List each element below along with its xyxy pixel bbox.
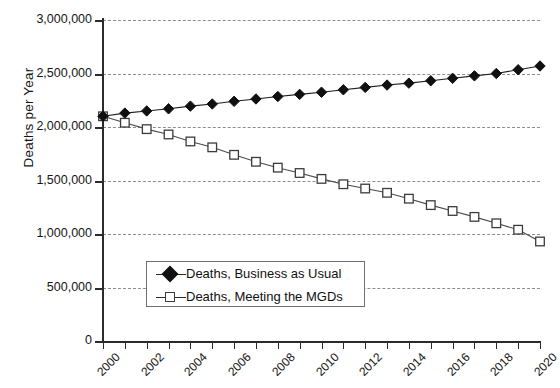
data-point-marker [294,89,304,99]
data-point-marker [120,108,130,118]
data-point-marker [121,118,130,127]
markers-business-as-usual [98,61,545,122]
data-point-marker [230,151,239,160]
data-point-marker [252,157,261,166]
data-point-marker [470,213,479,222]
data-point-marker [535,61,545,71]
legend-label-meeting-mgds: Deaths, Meeting the MGDs [186,289,343,304]
data-point-marker [361,184,370,193]
data-point-marker [251,94,261,104]
data-point-marker [405,194,414,203]
markers-meeting-mgds [99,112,545,246]
data-point-marker [426,76,436,86]
data-point-marker [186,137,195,146]
data-point-marker [229,96,239,106]
data-point-marker [404,78,414,88]
legend-item-business-as-usual: Deaths, Business as Usual [147,262,364,285]
data-point-marker [185,101,195,111]
data-point-marker [208,143,217,152]
data-point-marker [142,125,151,134]
data-point-marker [316,87,326,97]
data-point-marker [513,65,523,75]
data-point-marker [338,85,348,95]
data-point-marker [317,175,326,184]
data-point-marker [448,207,457,216]
data-point-marker [273,91,283,101]
open-square-marker-icon [156,288,186,306]
legend-item-meeting-mgds: Deaths, Meeting the MGDs [147,285,364,308]
data-point-marker [207,99,217,109]
data-point-marker [339,180,348,189]
data-point-marker [514,225,523,234]
data-point-marker [295,169,304,178]
legend-label-business-as-usual: Deaths, Business as Usual [186,266,341,281]
chart-legend: Deaths, Business as Usual Deaths, Meetin… [146,261,365,307]
data-point-marker [469,71,479,81]
data-point-marker [382,80,392,90]
data-point-marker [142,106,152,116]
data-point-marker [536,237,545,246]
filled-diamond-marker-icon [156,265,186,283]
data-point-marker [360,82,370,92]
data-point-marker [163,104,173,114]
data-point-marker [426,201,435,210]
data-point-marker [164,130,173,139]
data-point-marker [491,68,501,78]
data-point-marker [274,163,283,172]
data-point-marker [447,73,457,83]
data-point-marker [383,189,392,198]
data-point-marker [492,219,501,228]
